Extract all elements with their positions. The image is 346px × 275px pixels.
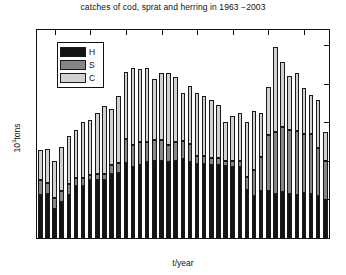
bar-segment-s: [95, 174, 100, 181]
x-tick-mark: [233, 238, 234, 239]
bar-2000: [302, 88, 307, 238]
bar-1974: [116, 96, 121, 239]
bar-segment-h: [195, 164, 200, 238]
bar-segment-c: [59, 147, 64, 191]
y-tick-mark: [36, 84, 37, 85]
bar-segment-h: [59, 202, 64, 238]
chart-title: catches of cod, sprat and herring in 196…: [0, 2, 346, 12]
bar-1968: [74, 130, 79, 238]
bar-1989: [223, 122, 228, 238]
bar-segment-c: [230, 116, 235, 161]
x-tick-mark-top: [162, 30, 163, 35]
x-tick-mark-top: [55, 30, 56, 35]
bar-1964: [45, 149, 50, 238]
legend-item-c[interactable]: C: [60, 72, 101, 84]
bar-segment-h: [131, 167, 136, 238]
x-tick-mark-top: [197, 30, 198, 35]
y-tick-mark: [36, 45, 37, 46]
bar-segment-s: [202, 156, 207, 164]
bar-segment-h: [159, 161, 164, 238]
bar-1971: [95, 113, 100, 238]
bar-segment-s: [145, 142, 150, 162]
bar-1976: [131, 68, 136, 238]
bar-segment-c: [238, 113, 243, 161]
bar-segment-c: [166, 73, 171, 144]
bar-segment-c: [81, 122, 86, 178]
bar-segment-h: [102, 180, 107, 238]
bar-segment-s: [245, 177, 250, 190]
bar-segment-h: [202, 164, 207, 238]
bar-segment-h: [280, 192, 285, 238]
bar-segment-h: [216, 165, 221, 238]
bar-segment-h: [88, 180, 93, 238]
bar-segment-h: [52, 209, 57, 238]
bar-segment-h: [152, 161, 157, 238]
bar-1997: [280, 62, 285, 238]
x-tick-mark: [304, 238, 305, 239]
y-tick-mark-right: [324, 122, 329, 123]
bar-segment-c: [152, 79, 157, 140]
bar-segment-c: [188, 86, 193, 144]
bar-segment-h: [173, 161, 178, 238]
bar-1967: [67, 136, 72, 238]
bar-1970: [88, 120, 93, 238]
bar-segment-s: [280, 127, 285, 192]
bar-1984: [188, 86, 193, 238]
bar-segment-c: [52, 161, 57, 198]
x-tick-mark-top: [233, 30, 234, 35]
bar-segment-s: [273, 132, 278, 194]
x-tick-mark: [126, 238, 127, 239]
bar-segment-s: [102, 174, 107, 181]
bar-segment-c: [323, 132, 328, 161]
bar-1982: [173, 77, 178, 238]
bar-segment-s: [173, 142, 178, 161]
bar-1963: [38, 150, 43, 238]
bar-segment-s: [81, 178, 86, 186]
bar-segment-s: [38, 180, 43, 194]
bar-segment-c: [195, 93, 200, 157]
bar-2002: [316, 100, 321, 238]
x-axis-label: t/year: [36, 258, 330, 268]
chart-figure: catches of cod, sprat and herring in 196…: [0, 0, 346, 275]
bar-segment-s: [295, 131, 300, 195]
bar-segment-h: [95, 180, 100, 238]
bar-segment-s: [259, 157, 264, 191]
bar-segment-c: [245, 122, 250, 177]
bar-segment-h: [145, 162, 150, 238]
legend-item-s[interactable]: S: [60, 59, 101, 71]
y-tick-mark-right: [324, 45, 329, 46]
bar-segment-c: [173, 77, 178, 142]
bar-segment-s: [131, 145, 136, 167]
bar-segment-h: [124, 163, 129, 238]
legend-swatch-h: [60, 47, 86, 57]
bar-1977: [138, 69, 143, 238]
bar-segment-s: [109, 165, 114, 175]
bar-segment-h: [252, 196, 257, 238]
bar-1992: [245, 122, 250, 238]
bar-1978: [145, 68, 150, 238]
bar-segment-h: [188, 162, 193, 238]
bar-segment-h: [287, 194, 292, 238]
y-tick-mark-right: [324, 238, 329, 239]
x-tick-mark: [55, 238, 56, 239]
bar-segment-c: [116, 96, 121, 163]
y-tick-mark: [36, 161, 37, 162]
bar-segment-s: [166, 145, 171, 162]
bar-segment-h: [309, 194, 314, 238]
bar-segment-c: [202, 96, 207, 156]
bar-segment-c: [145, 68, 150, 142]
bar-segment-h: [302, 193, 307, 238]
bar-segment-c: [295, 73, 300, 131]
bar-segment-c: [138, 69, 143, 141]
bar-segment-h: [230, 167, 235, 238]
bar-segment-h: [223, 166, 228, 238]
bar-segment-s: [138, 142, 143, 165]
legend-item-h[interactable]: H: [60, 46, 101, 58]
bar-segment-h: [209, 165, 214, 238]
bar-segment-s: [181, 141, 186, 159]
bar-1995: [266, 87, 271, 238]
x-tick-mark-top: [268, 30, 269, 35]
bar-segment-h: [38, 195, 43, 238]
bar-segment-s: [116, 163, 121, 173]
x-tick-mark: [162, 238, 163, 239]
